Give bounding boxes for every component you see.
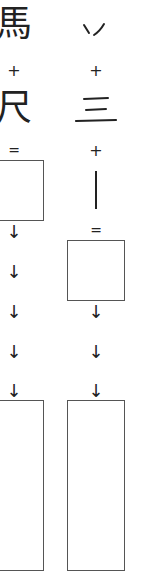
left-plus-sign: + <box>4 63 24 79</box>
right-arrow-3: ↓ <box>86 382 106 400</box>
left-answer-box[interactable] <box>0 160 44 221</box>
right-equals-sign: = <box>86 223 106 237</box>
left-arrow-4: ↓ <box>4 343 24 361</box>
left-writing-box[interactable] <box>0 400 44 571</box>
right-plus-sign-2: + <box>86 143 106 159</box>
right-component-bou: 丨 <box>95 171 97 209</box>
left-arrow-3: ↓ <box>4 303 24 321</box>
left-component-uma: 馬 <box>0 6 36 42</box>
san-glyph-icon <box>74 96 118 126</box>
so-glyph-icon <box>80 22 112 38</box>
right-plus-sign-1: + <box>86 63 106 79</box>
right-arrow-1: ↓ <box>86 303 106 321</box>
right-writing-box[interactable] <box>67 400 125 571</box>
left-component-shaku: 尺 <box>0 90 36 126</box>
right-component-so: ソ <box>80 22 112 38</box>
left-arrow-5: ↓ <box>4 382 24 400</box>
left-equals-sign: = <box>4 143 24 157</box>
left-arrow-2: ↓ <box>4 263 24 281</box>
right-arrow-2: ↓ <box>86 343 106 361</box>
right-answer-box[interactable] <box>67 240 125 301</box>
left-arrow-1: ↓ <box>4 223 24 241</box>
right-component-san: 三 <box>74 96 118 126</box>
